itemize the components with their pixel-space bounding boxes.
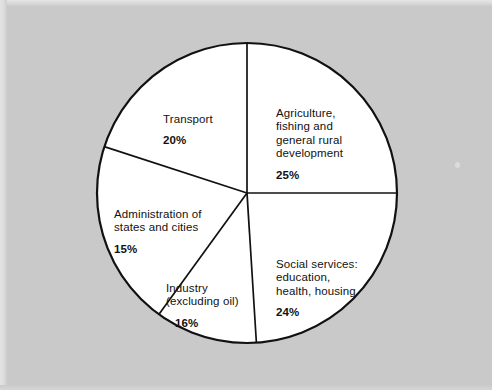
slice-percent-industry: 16%	[175, 317, 239, 331]
pie-chart-graphic	[0, 0, 492, 390]
slice-label-industry: Industry (excluding oil) 16%	[166, 268, 239, 344]
slice-percent-transport: 20%	[163, 134, 213, 148]
slice-label-social-services: Social services: education, health, hous…	[276, 244, 358, 333]
slice-percent-social-services: 24%	[276, 306, 358, 320]
slice-label-transport: Transport 20%	[163, 99, 213, 161]
slice-label-agriculture-text: Agriculture, fishing and general rural d…	[276, 107, 343, 160]
slice-label-agriculture: Agriculture, fishing and general rural d…	[276, 93, 343, 196]
slice-label-administration-text: Administration of states and cities	[114, 208, 202, 234]
slice-label-industry-text: Industry (excluding oil)	[166, 282, 239, 308]
slice-percent-administration: 15%	[114, 243, 202, 257]
slice-label-transport-text: Transport	[163, 113, 213, 125]
pie-chart-figure: Agriculture, fishing and general rural d…	[0, 0, 492, 390]
slice-label-social-services-text: Social services: education, health, hous…	[276, 258, 358, 297]
slice-percent-agriculture: 25%	[276, 169, 343, 183]
slice-label-administration: Administration of states and cities 15%	[114, 194, 202, 270]
